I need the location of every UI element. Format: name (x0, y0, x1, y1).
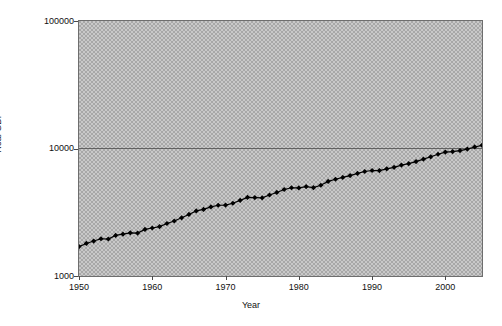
y-axis-tick-label: 1000 (0, 272, 74, 281)
data-point-marker (384, 166, 389, 171)
data-point-marker (369, 168, 374, 173)
x-axis-tick-mark (152, 276, 153, 280)
data-point-marker (428, 154, 433, 159)
data-point-marker (128, 230, 133, 235)
x-axis-tick-mark (299, 276, 300, 280)
data-point-marker (362, 169, 367, 174)
data-point-marker (282, 187, 287, 192)
data-point-marker (201, 207, 206, 212)
y-axis-tick-label: 100000 (0, 17, 74, 26)
data-point-marker (406, 161, 411, 166)
x-axis-tick-mark (79, 276, 80, 280)
data-point-marker (333, 177, 338, 182)
data-point-marker (267, 192, 272, 197)
data-point-marker (311, 185, 316, 190)
x-axis-tick-label: 1970 (216, 283, 236, 292)
data-point-marker (304, 184, 309, 189)
data-point-marker (142, 227, 147, 232)
data-point-marker (348, 173, 353, 178)
data-point-marker (106, 236, 111, 241)
data-point-marker (238, 198, 243, 203)
data-point-marker (208, 204, 213, 209)
data-point-marker (79, 244, 82, 249)
data-point-marker (289, 185, 294, 190)
data-point-marker (164, 221, 169, 226)
data-point-marker (186, 212, 191, 217)
data-point-marker (252, 195, 257, 200)
data-point-marker (245, 195, 250, 200)
series-markers-real-gdp (79, 143, 482, 250)
x-axis-tick-label: 1980 (289, 283, 309, 292)
x-axis-tick-mark (445, 276, 446, 280)
data-point-marker (150, 225, 155, 230)
data-point-marker (84, 241, 89, 246)
x-axis-tick-label: 1960 (142, 283, 162, 292)
data-point-marker (465, 146, 470, 151)
data-point-marker (413, 159, 418, 164)
data-point-marker (216, 203, 221, 208)
data-point-marker (421, 157, 426, 162)
data-point-marker (98, 236, 103, 241)
data-point-marker (479, 143, 482, 148)
data-point-marker (318, 183, 323, 188)
data-point-marker (377, 168, 382, 173)
x-axis-tick-mark (372, 276, 373, 280)
data-point-marker (157, 224, 162, 229)
data-point-marker (120, 232, 125, 237)
data-point-marker (135, 231, 140, 236)
data-point-marker (326, 179, 331, 184)
x-axis-label: Year (0, 301, 502, 310)
data-point-marker (355, 171, 360, 176)
y-axis-tick-label: 10000 (0, 144, 74, 153)
data-point-marker (230, 201, 235, 206)
data-point-marker (91, 238, 96, 243)
series-line-real-gdp (79, 145, 482, 246)
series-canvas (79, 21, 482, 276)
x-axis-tick-label: 1990 (362, 283, 382, 292)
data-point-marker (391, 165, 396, 170)
data-point-marker (399, 162, 404, 167)
data-point-marker (435, 152, 440, 157)
plot-area (78, 20, 483, 277)
data-point-marker (172, 218, 177, 223)
x-axis-tick-label: 1950 (69, 283, 89, 292)
data-point-marker (274, 190, 279, 195)
data-point-marker (113, 233, 118, 238)
x-axis-tick-label: 2000 (435, 283, 455, 292)
data-point-marker (223, 202, 228, 207)
data-point-marker (340, 175, 345, 180)
chart-figure: Real GDP 100000100001000 195019601970198… (0, 0, 502, 326)
x-axis-tick-mark (226, 276, 227, 280)
data-point-marker (443, 150, 448, 155)
data-point-marker (260, 195, 265, 200)
data-point-marker (450, 149, 455, 154)
data-point-marker (194, 208, 199, 213)
data-point-marker (296, 185, 301, 190)
data-point-marker (179, 215, 184, 220)
